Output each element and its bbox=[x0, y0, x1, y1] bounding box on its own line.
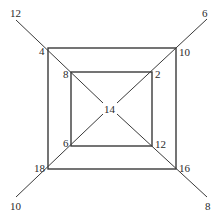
diagonal-top-right-segment bbox=[117, 19, 207, 103]
label-center: 14 bbox=[104, 103, 116, 115]
label-outer-top-left: 4 bbox=[39, 45, 45, 57]
label-end-top-right: 6 bbox=[202, 7, 208, 19]
diagonal-top-left-segment bbox=[16, 20, 103, 103]
diagonal-bottom-right-segment bbox=[117, 114, 207, 197]
label-outer-bottom-left: 18 bbox=[34, 162, 46, 174]
label-end-bottom-left: 10 bbox=[10, 200, 22, 212]
label-inner-bottom-right: 12 bbox=[155, 138, 166, 150]
label-inner-bottom-left: 6 bbox=[63, 137, 69, 149]
label-outer-top-right: 10 bbox=[179, 46, 191, 58]
label-outer-bottom-right: 16 bbox=[179, 162, 191, 174]
label-inner-top-right: 2 bbox=[155, 68, 161, 80]
diagonal-bottom-left-segment bbox=[16, 114, 103, 197]
label-end-bottom-right: 8 bbox=[205, 200, 211, 212]
label-end-top-left: 12 bbox=[10, 7, 21, 19]
nested-squares-diagram: 12 6 10 8 4 10 18 16 8 2 6 12 14 bbox=[0, 0, 222, 220]
label-inner-top-left: 8 bbox=[63, 68, 69, 80]
